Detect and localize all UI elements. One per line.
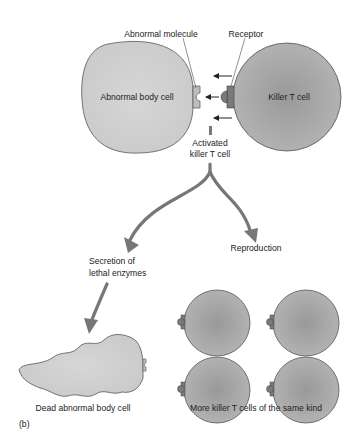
label-dead-cell: Dead abnormal body cell	[35, 403, 130, 413]
label-abnormal-molecule: Abnormal molecule	[124, 29, 198, 39]
label-secretion-1: Secretion of	[89, 256, 135, 266]
panel-label: (b)	[19, 419, 30, 429]
down-arrowhead	[84, 318, 98, 334]
dead-abnormal-body-cell	[19, 335, 146, 397]
label-activated-1: Activated	[192, 138, 228, 148]
label-abnormal-body-cell: Abnormal body cell	[100, 92, 173, 102]
right-arrowhead	[244, 228, 258, 243]
label-receptor: Receptor	[229, 29, 264, 39]
receptor-icon	[221, 86, 234, 108]
daughter-t-cell-4	[267, 357, 340, 423]
activation-dash-top	[209, 126, 212, 135]
label-reproduction: Reproduction	[230, 243, 281, 253]
immune-response-diagram: Abnormal molecule Receptor Abnormal body…	[0, 0, 359, 443]
daughter-t-cell-2	[267, 290, 340, 356]
label-killer-t-cell: Killer T cell	[268, 92, 310, 102]
label-activated-2: killer T cell	[190, 149, 230, 159]
label-secretion-2: lethal enzymes	[89, 268, 146, 278]
daughter-t-cell-3	[178, 357, 251, 423]
label-more-tcells: More killer T cells of the same kind	[190, 403, 322, 413]
daughter-t-cell-1	[178, 290, 251, 356]
abnormal-molecule-icon	[193, 86, 200, 108]
